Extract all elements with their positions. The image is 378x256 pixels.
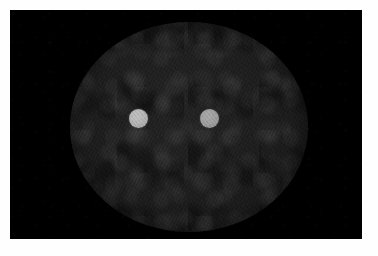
scan-field [10,10,362,239]
phantom-grain-layer [70,22,308,232]
phantom-body [70,22,308,232]
insert-right [200,109,219,128]
insert-left [129,109,148,128]
insert-right-grain [200,109,219,128]
phantom-vignette-layer [70,22,308,232]
image-viewer [0,0,378,256]
insert-left-grain [129,109,148,128]
phantom-texture-layer [70,22,308,232]
